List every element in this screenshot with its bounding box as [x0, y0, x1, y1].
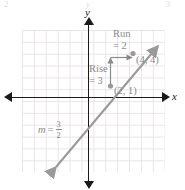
graph-overlay	[0, 0, 185, 190]
rise-value: = 3	[89, 76, 103, 87]
slope-equals: =	[48, 124, 54, 135]
point-label-2-1: (2, 1)	[114, 85, 137, 96]
slope-symbol: m	[38, 124, 46, 135]
slope-fraction: 3 2	[56, 120, 62, 139]
slope-denominator: 2	[56, 131, 62, 139]
slope-graph-figure: 2 y 3 y x Run = 2 Rise = 3 (4, 4) (	[0, 0, 185, 190]
run-label: Run	[113, 29, 131, 40]
point-2-1	[108, 83, 113, 88]
point-4-4	[130, 51, 135, 56]
slope-label: m = 3 2	[38, 120, 62, 139]
rise-label: Rise	[89, 64, 108, 75]
slope-numerator: 3	[56, 120, 62, 128]
point-label-4-4: (4, 4)	[136, 54, 159, 65]
run-value: = 2	[113, 41, 127, 52]
